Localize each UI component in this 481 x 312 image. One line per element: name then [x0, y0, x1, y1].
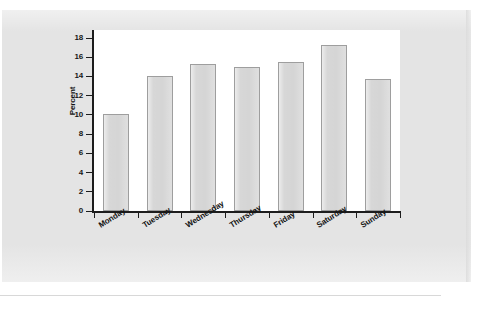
y-axis-tick-label-text: 0 [62, 207, 83, 215]
y-axis-tick-label: 6 [62, 149, 83, 157]
bar [190, 64, 216, 211]
y-axis-tick-label: 4 [62, 169, 83, 177]
y-axis-tick [86, 114, 92, 115]
y-axis-tick [86, 57, 92, 58]
y-axis-tick-label-text: 12 [62, 92, 83, 100]
bar [147, 76, 173, 211]
bar [278, 62, 304, 211]
y-axis-tick [86, 95, 92, 96]
x-axis-tick [400, 213, 401, 218]
y-axis-tick-label-text: 8 [62, 130, 83, 138]
x-axis-tick [356, 213, 357, 218]
y-axis-tick-label-text: 4 [62, 169, 83, 177]
bar [103, 114, 129, 211]
bar [365, 79, 391, 211]
bar [234, 67, 260, 211]
y-axis-tick [86, 38, 92, 39]
y-axis-tick-label-text: 14 [62, 72, 83, 80]
y-axis-tick [86, 153, 92, 154]
y-axis-tick-label: 16 [62, 53, 83, 61]
y-axis-tick-label: 2 [62, 188, 83, 196]
y-axis-tick-label: 10 [62, 111, 83, 119]
y-axis-tick-label: 8 [62, 130, 83, 138]
y-axis-tick [86, 134, 92, 135]
y-axis-line [92, 30, 94, 212]
y-axis-tick-label-text: 10 [62, 111, 83, 119]
y-axis-tick-label-text: 6 [62, 149, 83, 157]
y-axis-tick-label: 12 [62, 92, 83, 100]
y-axis-tick-label: 14 [62, 72, 83, 80]
bar [321, 45, 347, 211]
y-axis-tick-label: 18 [62, 34, 83, 42]
x-axis-tick [138, 213, 139, 218]
bar-chart-figure: Percent 024681012141618 MondayTuesdayWed… [0, 0, 481, 312]
x-axis-tick [313, 213, 314, 218]
x-axis-tick [225, 213, 226, 218]
y-axis-tick [86, 172, 92, 173]
y-axis-tick-label-text: 16 [62, 53, 83, 61]
x-axis-tick [94, 213, 95, 218]
y-axis-tick [86, 191, 92, 192]
y-axis-tick [86, 76, 92, 77]
y-axis-tick-label-text: 18 [62, 34, 83, 42]
y-axis-tick-label-text: 2 [62, 188, 83, 196]
x-axis-tick [269, 213, 270, 218]
y-axis-tick [86, 211, 92, 212]
y-axis-tick-label: 0 [62, 207, 83, 215]
x-axis-tick [181, 213, 182, 218]
